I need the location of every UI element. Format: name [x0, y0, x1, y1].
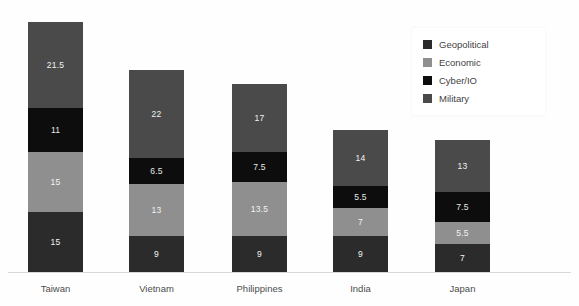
bar-group-japan[interactable]: 7 5.5 7.5 13 Japan [435, 140, 490, 272]
bar-segment-economic[interactable]: 13.5 [232, 182, 287, 236]
legend-label: Cyber/IO [439, 76, 477, 86]
stacked-bar-chart: 15 15 11 21.5 Taiwan 9 1 [0, 0, 579, 306]
bar-segment-value: 13.5 [251, 205, 268, 214]
bar-segment-military[interactable]: 14 [333, 130, 388, 186]
bar-stack-philippines: 9 13.5 7.5 17 [232, 84, 287, 272]
bar-segment-cyber-io[interactable]: 6.5 [129, 158, 184, 184]
bar-segment-value: 17 [255, 114, 265, 123]
bar-segment-geopolitical[interactable]: 7 [435, 244, 490, 272]
bar-segment-value: 22 [152, 110, 162, 119]
bar-segment-cyber-io[interactable]: 7.5 [232, 152, 287, 182]
bar-segment-value: 13 [458, 162, 468, 171]
bar-segment-value: 15 [51, 178, 61, 187]
bar-segment-geopolitical[interactable]: 15 [28, 212, 83, 272]
category-label-philippines: Philippines [237, 283, 283, 294]
bar-stack-japan: 7 5.5 7.5 13 [435, 140, 490, 272]
legend-swatch-icon [423, 40, 432, 49]
bar-segment-economic[interactable]: 15 [28, 152, 83, 212]
bar-segment-value: 5.5 [354, 193, 366, 202]
legend-item-geopolitical[interactable]: Geopolitical [423, 37, 535, 52]
bar-segment-economic[interactable]: 5.5 [435, 222, 490, 244]
x-axis-line [8, 272, 571, 273]
bar-segment-value: 14 [356, 154, 366, 163]
bar-segment-value: 11 [51, 126, 60, 135]
bar-segment-value: 9 [257, 250, 262, 259]
bar-group-taiwan[interactable]: 15 15 11 21.5 Taiwan [28, 22, 83, 272]
legend-label: Economic [439, 58, 481, 68]
bar-segment-value: 15 [51, 238, 61, 247]
legend-item-military[interactable]: Military [423, 91, 535, 106]
bar-segment-economic[interactable]: 7 [333, 208, 388, 236]
bar-segment-economic[interactable]: 13 [129, 184, 184, 236]
bar-stack-taiwan: 15 15 11 21.5 [28, 22, 83, 272]
bar-segment-value: 7.5 [253, 163, 265, 172]
legend-label: Military [439, 94, 469, 104]
legend-item-economic[interactable]: Economic [423, 55, 535, 70]
bar-segment-cyber-io[interactable]: 11 [28, 108, 83, 152]
bar-segment-value: 7 [460, 254, 465, 263]
legend-swatch-icon [423, 58, 432, 67]
bar-segment-cyber-io[interactable]: 7.5 [435, 192, 490, 222]
bar-segment-military[interactable]: 13 [435, 140, 490, 192]
bar-segment-geopolitical[interactable]: 9 [129, 236, 184, 272]
bar-segment-value: 13 [152, 206, 162, 215]
bar-segment-value: 7.5 [456, 203, 468, 212]
category-label-vietnam: Vietnam [139, 283, 174, 294]
category-label-taiwan: Taiwan [41, 283, 71, 294]
chart-legend: Geopolitical Economic Cyber/IO Military [412, 28, 545, 115]
bar-stack-vietnam: 9 13 6.5 22 [129, 70, 184, 272]
category-label-japan: Japan [450, 283, 476, 294]
bar-segment-military[interactable]: 22 [129, 70, 184, 158]
bar-segment-value: 21.5 [47, 61, 64, 70]
bar-group-philippines[interactable]: 9 13.5 7.5 17 Philippines [232, 84, 287, 272]
legend-label: Geopolitical [439, 40, 489, 50]
bar-group-india[interactable]: 9 7 5.5 14 India [333, 130, 388, 272]
bar-segment-value: 9 [358, 250, 363, 259]
bar-segment-value: 6.5 [150, 167, 162, 176]
bar-segment-military[interactable]: 21.5 [28, 22, 83, 108]
bar-segment-geopolitical[interactable]: 9 [232, 236, 287, 272]
bar-segment-military[interactable]: 17 [232, 84, 287, 152]
legend-swatch-icon [423, 76, 432, 85]
bar-segment-geopolitical[interactable]: 9 [333, 236, 388, 272]
bar-segment-value: 9 [154, 250, 159, 259]
bar-segment-value: 7 [358, 218, 363, 227]
legend-item-cyber-io[interactable]: Cyber/IO [423, 73, 535, 88]
bar-group-vietnam[interactable]: 9 13 6.5 22 Vietnam [129, 70, 184, 272]
legend-swatch-icon [423, 94, 432, 103]
bar-segment-value: 5.5 [456, 229, 468, 238]
bar-stack-india: 9 7 5.5 14 [333, 130, 388, 272]
bar-segment-cyber-io[interactable]: 5.5 [333, 186, 388, 208]
category-label-india: India [350, 283, 371, 294]
